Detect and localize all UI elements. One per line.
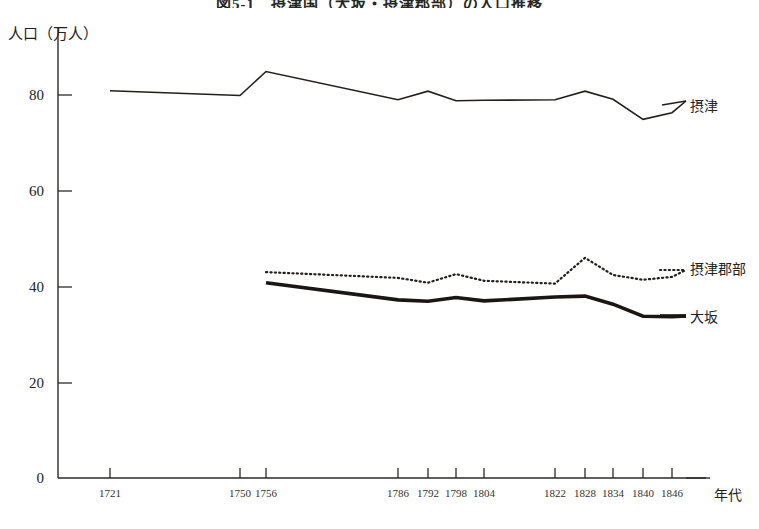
chart-figure: 図5-1 摂津国（大坂・摂津郡部）の人口推移 人口（万人） 年代 80 60 4… [0, 0, 759, 529]
series-line-settsu [110, 72, 686, 120]
x-tick-marks [110, 468, 672, 478]
series-line-settsu-gunbu [266, 258, 686, 284]
plot-area [0, 0, 759, 529]
series-line-osaka [266, 283, 686, 317]
y-tick-marks [58, 95, 72, 383]
